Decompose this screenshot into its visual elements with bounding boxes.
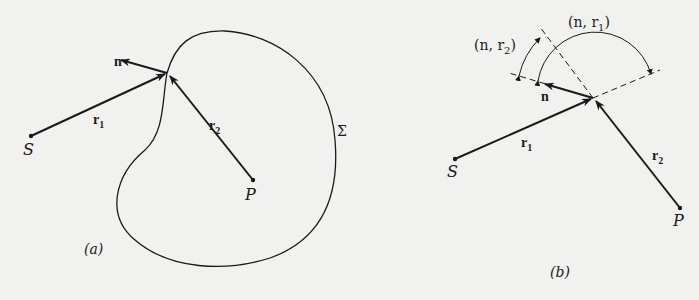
point-p-dot xyxy=(251,178,255,182)
caption-a: (a) xyxy=(84,241,103,257)
label-r1: r1 xyxy=(521,135,532,153)
label-p: P xyxy=(244,185,256,204)
label-r2: r2 xyxy=(209,118,220,136)
label-angle-n-r1: (n, r1) xyxy=(568,14,610,33)
point-s-dot xyxy=(453,157,457,161)
arc-n-r1 xyxy=(538,32,651,81)
label-s: S xyxy=(23,140,34,159)
label-s: S xyxy=(447,162,458,181)
label-sigma: Σ xyxy=(337,123,347,139)
n-vector xyxy=(545,84,593,98)
point-p-dot xyxy=(678,206,682,210)
caption-b: (b) xyxy=(550,264,570,280)
panel-b: n r1 r2 S P (n, r1) (n, r2) (b) xyxy=(447,14,684,280)
arc-n-r2 xyxy=(519,38,540,76)
label-r1: r1 xyxy=(93,112,104,130)
r1-vector xyxy=(455,99,591,159)
dashed-r2-extension xyxy=(540,27,593,98)
point-s-dot xyxy=(29,134,33,138)
surface-sigma-curve xyxy=(117,31,336,266)
dashed-r1-extension xyxy=(593,70,660,98)
label-n: n xyxy=(114,54,122,69)
n-vector xyxy=(121,60,167,73)
label-angle-n-r2: (n, r2) xyxy=(474,37,516,56)
panel-a: n r1 r2 S P Σ (a) xyxy=(23,31,347,266)
label-n: n xyxy=(541,89,549,104)
label-p: P xyxy=(672,211,684,230)
diagram-canvas: n r1 r2 S P Σ (a) n r1 r2 S P (n, r1) (n… xyxy=(0,0,699,300)
r2-vector xyxy=(596,101,680,208)
label-r2: r2 xyxy=(652,148,663,166)
